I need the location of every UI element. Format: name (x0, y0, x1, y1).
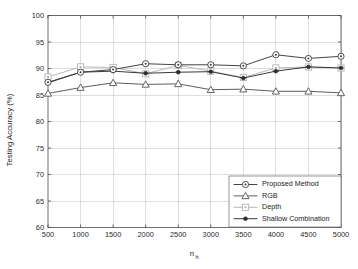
marker-circle-center (245, 184, 247, 186)
y-tick-label: 85 (36, 91, 44, 100)
series-rgb (44, 79, 344, 96)
marker-circle-center (112, 69, 114, 71)
y-tick-label: 65 (36, 197, 44, 206)
x-tick-label: 3000 (203, 230, 219, 239)
data-point-circle (242, 181, 248, 187)
data-point-circle (338, 53, 344, 59)
line-chart: 6065707580859095100 50010001500200025003… (0, 0, 358, 269)
y-tick-label: 70 (36, 170, 44, 179)
figure-container: 6065707580859095100 50010001500200025003… (0, 0, 358, 269)
data-point-circle (45, 79, 51, 85)
x-tick-label: 3500 (235, 230, 251, 239)
chart-legend[interactable]: Proposed MethodRGBDepthShallow Combinati… (229, 176, 341, 227)
x-axis-title: n (190, 249, 194, 258)
data-point-circle (110, 66, 116, 72)
marker-circle-center (242, 65, 244, 67)
marker-circle-center (210, 64, 212, 66)
data-point-circle (143, 61, 149, 67)
data-point-circle (305, 55, 311, 61)
x-axis-title-subscript: h (195, 254, 198, 260)
y-tick-label: 80 (36, 117, 44, 126)
x-tick-label: 1500 (105, 230, 121, 239)
legend-label: Proposed Method (262, 179, 319, 188)
x-tick-label: 1000 (72, 230, 88, 239)
series-polyline (48, 67, 341, 83)
marker-square-center (47, 76, 49, 78)
data-point-circle (273, 52, 279, 58)
legend-label: Depth (262, 202, 281, 211)
marker-square-center (275, 67, 277, 69)
marker-circle-center (340, 55, 342, 57)
x-tick-label: 4000 (268, 230, 284, 239)
x-tick-label: 2500 (170, 230, 186, 239)
marker-square-center (80, 66, 82, 68)
legend-label: RGB (262, 191, 278, 200)
data-point-circle (240, 63, 246, 69)
y-tick-label: 75 (36, 144, 44, 153)
data-point-circle (175, 62, 181, 68)
x-tick-label: 2000 (137, 230, 153, 239)
data-point-circle (208, 62, 214, 68)
marker-circle-center (275, 54, 277, 56)
marker-square-center (245, 206, 247, 208)
x-tick-label: 5000 (333, 230, 349, 239)
series-polyline (48, 83, 341, 94)
y-axis-title: Testing Accuracy (%) (5, 93, 14, 166)
data-point-circle (77, 69, 83, 75)
y-tick-label: 90 (36, 64, 44, 73)
data-point-triangle (110, 79, 117, 85)
marker-circle-center (307, 57, 309, 59)
x-tick-label: 500 (42, 230, 54, 239)
data-series (44, 52, 344, 97)
marker-circle-center (177, 64, 179, 66)
data-point-square (242, 204, 248, 210)
legend-label: Shallow Combination (262, 214, 330, 223)
marker-circle-center (47, 81, 49, 83)
marker-triangle (110, 79, 117, 85)
data-point-dot (176, 70, 181, 74)
marker-circle-center (145, 63, 147, 65)
x-tick-label: 4500 (300, 230, 316, 239)
y-tick-label: 95 (36, 38, 44, 47)
y-tick-label: 100 (32, 11, 44, 20)
marker-circle-center (80, 71, 82, 73)
